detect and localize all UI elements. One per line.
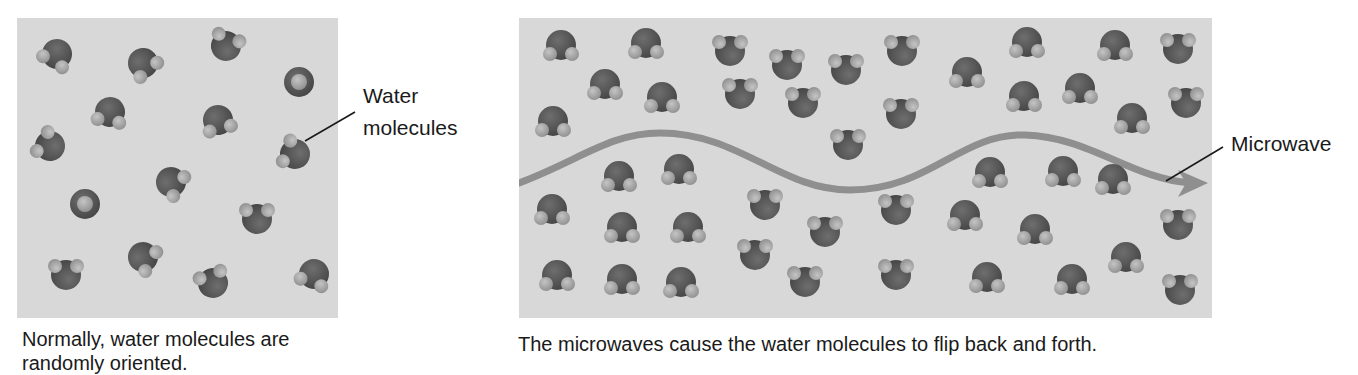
water-molecules-label: Water molecules xyxy=(363,80,458,144)
microwave-label: Microwave xyxy=(1231,128,1331,160)
left-caption-line1: Normally, water molecules are xyxy=(22,327,290,351)
water-label-line2: molecules xyxy=(363,112,458,144)
right-caption: The microwaves cause the water molecules… xyxy=(518,332,1097,356)
water-label-line1: Water xyxy=(363,80,458,112)
right-panel-aligned-molecules xyxy=(519,18,1212,318)
left-panel-random-molecules xyxy=(17,18,338,318)
left-caption-line2: randomly oriented. xyxy=(22,351,188,375)
